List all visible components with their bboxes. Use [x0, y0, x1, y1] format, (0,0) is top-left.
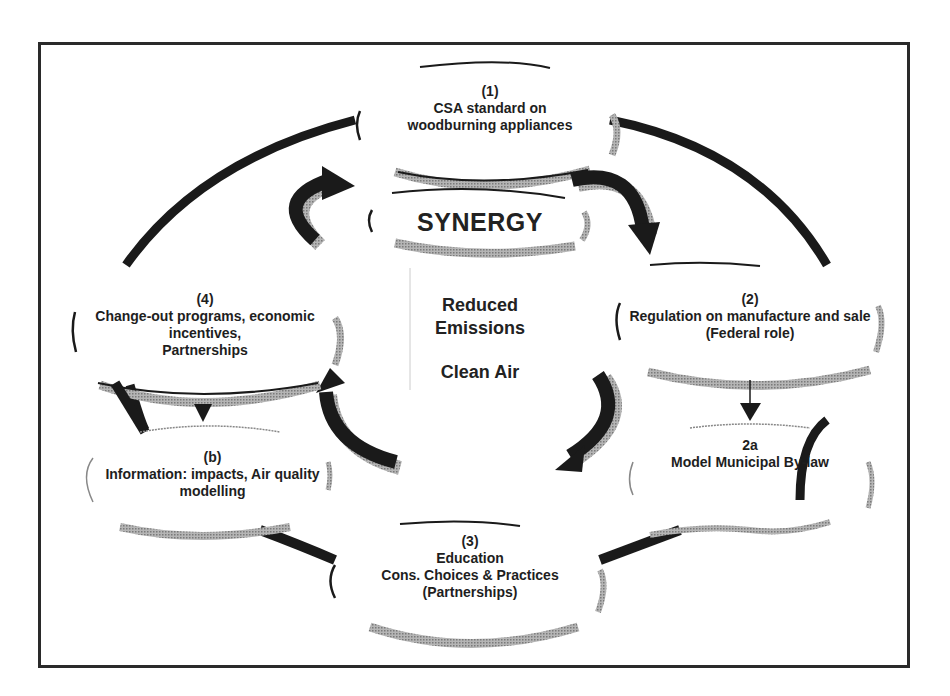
center-outcome-line-1: Reduced	[400, 294, 560, 317]
node-2a: 2a Model Municipal By-law	[640, 437, 860, 471]
node-b-number: (b)	[95, 449, 330, 466]
node-1-line-1: CSA standard on	[380, 100, 600, 117]
node-2-number: (2)	[620, 291, 880, 308]
node-4: (4) Change-out programs, economic incent…	[80, 291, 330, 359]
node-2a-number: 2a	[640, 437, 860, 454]
node-1-number: (1)	[380, 83, 600, 100]
node-3: (3) Education Cons. Choices & Practices …	[350, 533, 590, 601]
node-b-line-1: Information: impacts, Air quality	[95, 466, 330, 483]
node-b: (b) Information: impacts, Air quality mo…	[95, 449, 330, 500]
arrow-2-to-2a	[740, 403, 761, 421]
node-4-line-3: Partnerships	[80, 342, 330, 359]
outer-cycle-arc-bottom-left	[260, 530, 335, 560]
node-3-number: (3)	[350, 533, 590, 550]
center-clean-air: Clean Air	[400, 361, 560, 384]
node-1: (1) CSA standard on woodburning applianc…	[380, 83, 600, 134]
node-3-line-2: Cons. Choices & Practices	[350, 567, 590, 584]
center-outcome-line-2: Emissions	[400, 317, 560, 340]
arrow-4-to-1	[296, 166, 355, 245]
arrow-4-to-b	[194, 404, 212, 422]
node-b-line-2: modelling	[95, 483, 330, 500]
node-2-line-1: Regulation on manufacture and sale	[620, 308, 880, 325]
node-3-line-3: (Partnerships)	[350, 584, 590, 601]
node-4-line-1: Change-out programs, economic	[80, 308, 330, 325]
synergy-label: SYNERGY	[400, 208, 560, 237]
node-1-line-2: woodburning appliances	[380, 117, 600, 134]
node-2: (2) Regulation on manufacture and sale (…	[620, 291, 880, 342]
node-2-line-2: (Federal role)	[620, 325, 880, 342]
node-3-line-1: Education	[350, 550, 590, 567]
node-2a-line-1: Model Municipal By-law	[640, 454, 860, 471]
node-4-number: (4)	[80, 291, 330, 308]
arrow-2-to-3	[555, 375, 615, 472]
node-4-line-2: incentives,	[80, 325, 330, 342]
center-outcome: Reduced Emissions Clean Air	[400, 294, 560, 384]
